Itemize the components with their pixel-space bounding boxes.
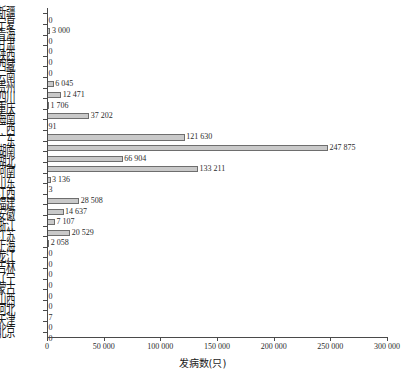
bar-row: 6 045	[47, 80, 387, 91]
bar[interactable]	[47, 219, 55, 225]
bar-row: 0	[47, 69, 387, 80]
bar-value-label: 0	[49, 291, 53, 302]
bar-value-label: 0	[49, 68, 53, 79]
bar-value-label: 91	[49, 121, 57, 132]
y-axis-tick	[43, 300, 47, 301]
y-axis-tick	[43, 247, 47, 248]
bar-chart: 03 00000006 04512 4711 70637 20291121 63…	[0, 0, 405, 374]
bar-value-label: 133 211	[199, 163, 225, 174]
category-label-text: 北京	[0, 324, 16, 339]
bar[interactable]	[47, 81, 54, 87]
bar-value-label: 14 637	[65, 206, 87, 217]
x-axis-tick	[330, 337, 331, 341]
bar[interactable]	[47, 166, 198, 172]
x-axis-tick-label: 200 000	[261, 342, 287, 351]
bar-row: 0	[47, 58, 387, 69]
y-axis-tick	[43, 194, 47, 195]
bar-value-label: 0	[49, 15, 53, 26]
x-axis-tick-label: 150 000	[204, 342, 230, 351]
y-axis-tick	[43, 183, 47, 184]
bar[interactable]	[47, 156, 123, 162]
bar[interactable]	[47, 134, 185, 140]
bar-value-label: 0	[49, 301, 53, 312]
bar-row: 12 471	[47, 90, 387, 101]
bar-row: 247 875	[47, 143, 387, 154]
bar-row: 7 107	[47, 218, 387, 229]
y-axis-tick	[43, 215, 47, 216]
y-axis-tick	[43, 98, 47, 99]
bar-value-label: 0	[49, 259, 53, 270]
bar-value-label: 1 706	[50, 100, 68, 111]
x-axis-tick-label: 250 000	[317, 342, 343, 351]
bar-value-label: 7 107	[57, 216, 75, 227]
x-axis-tick-label: 100 000	[147, 342, 173, 351]
y-axis-tick	[43, 236, 47, 237]
bar[interactable]	[47, 209, 64, 215]
y-axis-tick	[43, 279, 47, 280]
bar-row: 0	[47, 260, 387, 271]
bar[interactable]	[47, 92, 61, 98]
bar-value-label: 3	[49, 184, 53, 195]
bar-row: 3 000	[47, 27, 387, 38]
bar-value-label: 0	[49, 333, 53, 344]
y-axis-tick	[43, 88, 47, 89]
y-axis-tick	[43, 141, 47, 142]
y-axis-line	[47, 8, 48, 338]
bar-row: 7	[47, 313, 387, 324]
x-axis-tick	[274, 337, 275, 341]
bar-row: 20 529	[47, 228, 387, 239]
bar-row: 0	[47, 16, 387, 27]
category-label: 北京	[0, 326, 16, 337]
bar-row: 133 211	[47, 165, 387, 176]
y-axis-tick	[43, 130, 47, 131]
bar-value-label: 0	[49, 322, 53, 333]
bar-row: 0	[47, 324, 387, 335]
y-axis-tick	[43, 257, 47, 258]
bar-value-label: 6 045	[55, 78, 73, 89]
plot-area: 03 00000006 04512 4711 70637 20291121 63…	[47, 8, 387, 337]
y-axis-tick	[43, 162, 47, 163]
bar-value-label: 3 136	[52, 174, 70, 185]
bar-value-label: 28 508	[81, 195, 103, 206]
bar-value-label: 121 630	[186, 131, 212, 142]
bar-value-label: 20 529	[72, 227, 94, 238]
x-axis-tick	[104, 337, 105, 341]
bar[interactable]	[47, 230, 70, 236]
y-axis-tick	[43, 56, 47, 57]
y-axis-tick	[43, 321, 47, 322]
y-axis-tick	[43, 310, 47, 311]
y-axis-tick	[43, 226, 47, 227]
bar-value-label: 2 058	[51, 237, 69, 248]
x-axis-tick-label: 300 000	[374, 342, 400, 351]
y-axis-tick	[43, 332, 47, 333]
bar[interactable]	[47, 198, 79, 204]
bar-value-label: 0	[49, 280, 53, 291]
y-axis-tick	[43, 77, 47, 78]
bar-value-label: 7	[49, 312, 53, 323]
y-axis-tick	[43, 109, 47, 110]
y-axis-tick	[43, 13, 47, 14]
bar-row: 0	[47, 303, 387, 314]
bar-row: 0	[47, 249, 387, 260]
bar-value-label: 0	[49, 57, 53, 68]
y-axis-tick	[43, 289, 47, 290]
bar-row: 3 136	[47, 175, 387, 186]
y-axis-tick	[43, 268, 47, 269]
bar[interactable]	[47, 113, 89, 119]
x-axis-title: 发病数(只)	[0, 355, 405, 370]
bar-value-label: 12 471	[63, 89, 85, 100]
bar-value-label: 3 000	[52, 25, 70, 36]
bar-row: 0	[47, 271, 387, 282]
bar-value-label: 37 202	[91, 110, 113, 121]
bar-value-label: 0	[49, 269, 53, 280]
bar-row: 91	[47, 122, 387, 133]
y-axis-tick	[43, 204, 47, 205]
bar-row: 2 058	[47, 239, 387, 250]
y-axis-tick	[43, 45, 47, 46]
x-axis-tick	[217, 337, 218, 341]
bar[interactable]	[47, 145, 328, 151]
x-axis-tick-label: 50 000	[93, 342, 115, 351]
x-axis-title-text: 发病数(只)	[179, 355, 227, 370]
bar-value-label: 247 875	[329, 142, 355, 153]
y-axis-tick	[43, 119, 47, 120]
